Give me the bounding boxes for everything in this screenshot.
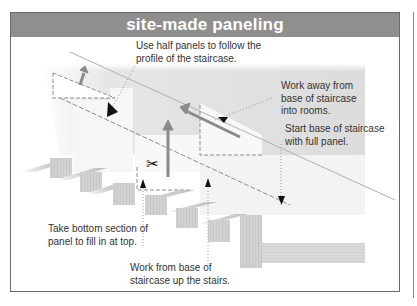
callout-half-panels: Use half panels to follow the profile of… — [136, 40, 261, 65]
wall-lower — [200, 155, 365, 215]
callout-work-from-base: Work from base of staircase up the stair… — [130, 262, 230, 287]
callout-work-away: Work away from base of staircase into ro… — [281, 80, 357, 118]
floor-landing — [260, 243, 365, 263]
callout-start-base: Start base of staircase with full panel. — [285, 123, 385, 148]
scissors-icon: ✂ — [146, 158, 159, 171]
callout-take-bottom: Take bottom section of panel to fill in … — [48, 223, 148, 248]
